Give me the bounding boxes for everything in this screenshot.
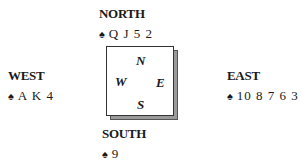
east-label: EAST [227, 68, 299, 83]
compass-west: W [115, 75, 127, 89]
south-cards: 9 [112, 146, 120, 161]
east-hand: EAST ♠10 8 7 6 3 [227, 68, 299, 104]
compass-box: N W E S [106, 46, 174, 116]
south-label: SOUTH [102, 126, 146, 141]
west-cards-row: ♠A K 4 [8, 88, 54, 104]
spade-icon: ♠ [99, 28, 106, 40]
spade-icon: ♠ [8, 90, 15, 102]
spade-icon: ♠ [227, 90, 234, 102]
west-label: WEST [8, 68, 54, 83]
compass-south: S [137, 98, 144, 112]
north-cards-row: ♠Q J 5 2 [99, 26, 153, 42]
east-cards: 10 8 7 6 3 [237, 88, 299, 103]
north-label: NORTH [99, 6, 153, 21]
compass-north: N [136, 54, 145, 68]
compass-east: E [156, 76, 165, 90]
east-cards-row: ♠10 8 7 6 3 [227, 88, 299, 104]
spade-icon: ♠ [102, 148, 109, 160]
west-cards: A K 4 [18, 88, 54, 103]
north-cards: Q J 5 2 [109, 26, 153, 41]
south-cards-row: ♠9 [102, 146, 146, 162]
south-hand: SOUTH ♠9 [102, 126, 146, 162]
north-hand: NORTH ♠Q J 5 2 [99, 6, 153, 42]
west-hand: WEST ♠A K 4 [8, 68, 54, 104]
